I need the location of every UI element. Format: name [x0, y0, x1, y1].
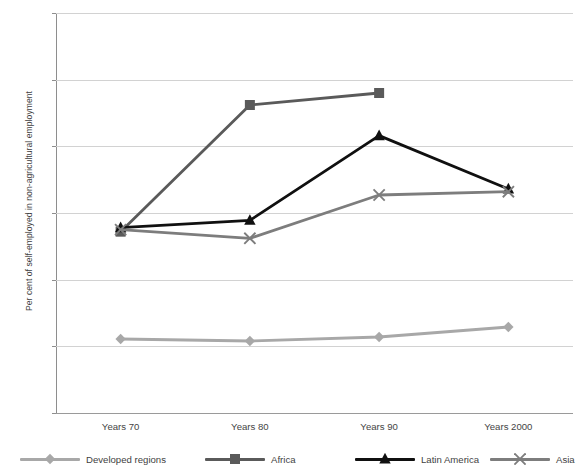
- legend-marker-diamond-icon: [44, 453, 56, 465]
- data-point-marker: [503, 322, 513, 332]
- y-tick-mark-0: [52, 413, 56, 414]
- legend-label: Latin America: [421, 454, 479, 465]
- gridline-0: [56, 413, 573, 414]
- x-tick-label-1: Years 80: [190, 421, 310, 432]
- legend-item-asia[interactable]: Asia: [490, 447, 575, 471]
- data-point-marker: [245, 100, 255, 110]
- legend-label: Asia: [556, 454, 575, 465]
- chart-legend: Developed regionsAfricaLatin AmericaAsia: [0, 447, 579, 471]
- y-axis-title: Per cent of self-employed in non-agricul…: [24, 76, 34, 326]
- legend-swatch: [205, 452, 265, 466]
- x-tick-label-2: Years 90: [319, 421, 439, 432]
- data-point-marker: [373, 129, 384, 140]
- series-line: [121, 192, 509, 239]
- plot-area: 0102030405060Years 70Years 80Years 90Yea…: [56, 13, 573, 413]
- legend-label: Africa: [271, 454, 296, 465]
- legend-label: Developed regions: [86, 454, 166, 465]
- series-asia: [115, 186, 514, 244]
- legend-marker-square-icon: [229, 453, 241, 465]
- series-line: [121, 327, 509, 341]
- data-point-marker: [115, 334, 125, 344]
- series-line: [121, 136, 509, 228]
- legend-swatch: [490, 452, 550, 466]
- legend-item-developed-regions[interactable]: Developed regions: [20, 447, 166, 471]
- x-tick-label-0: Years 70: [61, 421, 181, 432]
- x-tick-label-3: Years 2000: [448, 421, 568, 432]
- series-layer: [56, 13, 573, 413]
- legend-item-africa[interactable]: Africa: [205, 447, 296, 471]
- legend-swatch: [355, 452, 415, 466]
- legend-item-latin-america[interactable]: Latin America: [355, 447, 479, 471]
- data-point-marker: [374, 332, 384, 342]
- data-point-marker: [374, 88, 384, 98]
- data-point-marker: [245, 336, 255, 346]
- series-developed-regions: [115, 322, 513, 346]
- chart-container: Per cent of self-employed in non-agricul…: [0, 0, 579, 476]
- legend-swatch: [20, 452, 80, 466]
- legend-marker-cross-icon: [514, 453, 526, 465]
- clipped-header-text: [0, 0, 579, 9]
- legend-marker-triangle-icon: [379, 453, 391, 465]
